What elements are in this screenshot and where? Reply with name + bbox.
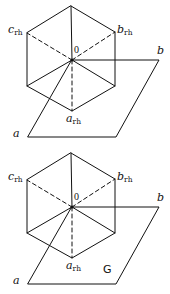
label-origin: 0: [74, 45, 79, 55]
diagram-panel-top: crh brh 0 b arh a: [0, 0, 170, 147]
label-b-rh: brh: [117, 171, 132, 184]
label-b-rh: brh: [117, 24, 132, 37]
label-a-rh: arh: [66, 260, 81, 273]
label-b: b: [157, 45, 164, 56]
label-a: a: [13, 275, 20, 286]
spoke-top: [71, 6, 72, 60]
label-a: a: [13, 128, 20, 139]
label-c-rh: crh: [8, 171, 23, 184]
label-b: b: [157, 192, 164, 203]
axis-c-rh-dashed: [27, 180, 72, 207]
label-g: G: [103, 264, 112, 275]
origin-point: [70, 205, 73, 208]
label-origin: 0: [74, 192, 79, 202]
label-c-rh: crh: [8, 24, 23, 37]
origin-point: [70, 58, 73, 61]
axis-c-rh-dashed: [27, 33, 72, 60]
spoke-lower-left: [27, 207, 72, 233]
spoke-lower-right: [72, 60, 115, 86]
spoke-lower-left: [27, 60, 72, 86]
hexagon-lattice-diagram: [0, 0, 170, 147]
diagram-panel-bottom: crh brh 0 b arh a G: [0, 147, 170, 294]
spoke-lower-right: [72, 207, 115, 233]
label-a-rh: arh: [66, 113, 81, 126]
spoke-top: [71, 153, 72, 207]
hexagon-lattice-diagram: [0, 147, 170, 294]
